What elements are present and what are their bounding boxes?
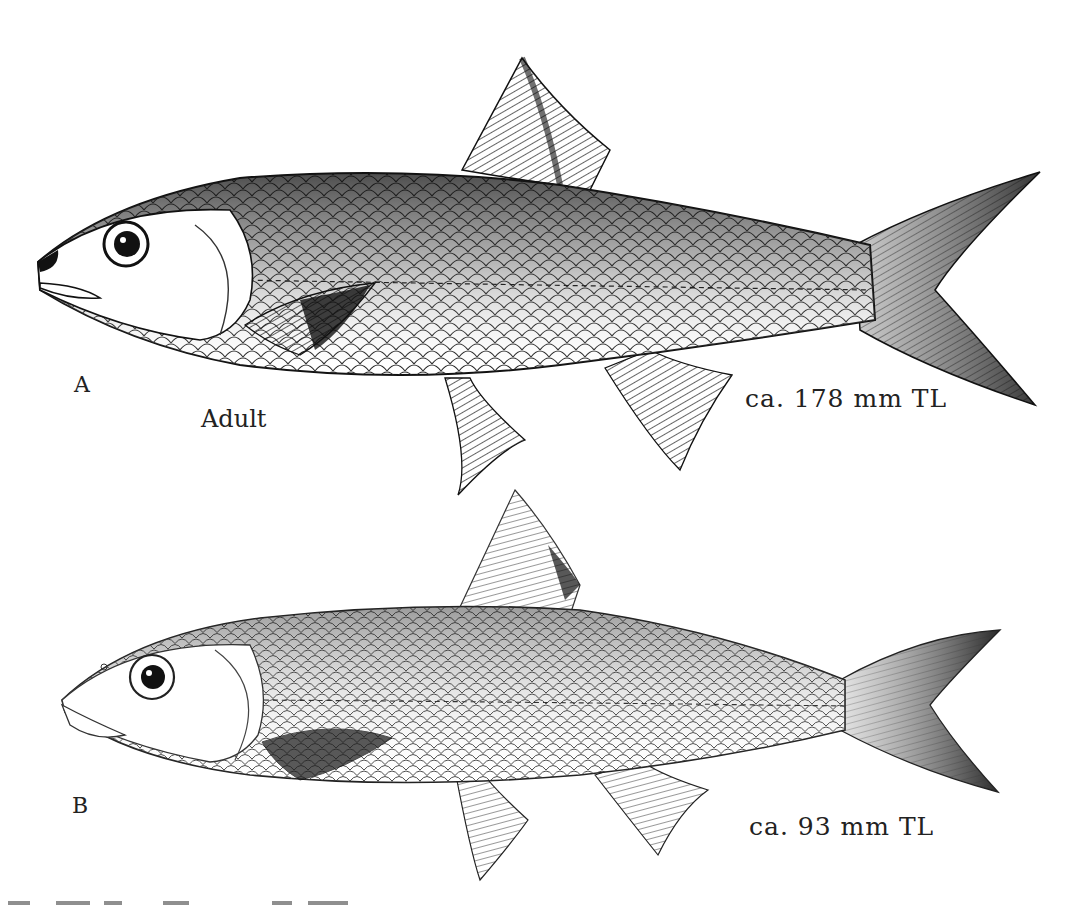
panel-a-size-label: ca. 178 mm TL — [745, 384, 947, 413]
panel-a-stage-label: Adult — [201, 405, 266, 433]
fish-illustration-plate: A Adult ca. 178 mm TL B ca. 93 mm TL — [0, 0, 1072, 909]
panel-a-letter: A — [74, 372, 90, 397]
panel-b-size-label: ca. 93 mm TL — [749, 812, 934, 841]
panel-b-letter: B — [72, 793, 88, 818]
figure-caption-cropped — [0, 895, 1072, 909]
fish-a-drawing — [38, 58, 1040, 495]
fish-drawings — [0, 0, 1072, 909]
